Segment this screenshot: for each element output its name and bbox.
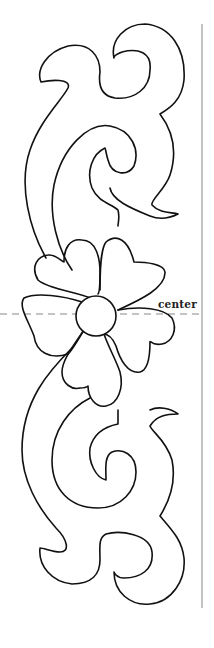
flower-petal-top-left bbox=[35, 240, 100, 300]
flower-center-circle bbox=[76, 296, 116, 336]
flower-petal-top-right bbox=[100, 238, 165, 310]
quilting-pattern bbox=[0, 0, 214, 648]
lower-scroll-outer bbox=[22, 348, 184, 604]
flower-petal-bottom bbox=[62, 330, 121, 406]
upper-scroll-outer bbox=[25, 24, 184, 258]
center-label: center bbox=[158, 298, 197, 310]
lower-scroll-inner bbox=[52, 398, 136, 508]
flower-petal-left bbox=[22, 295, 84, 356]
upper-scroll-inner bbox=[52, 126, 136, 270]
